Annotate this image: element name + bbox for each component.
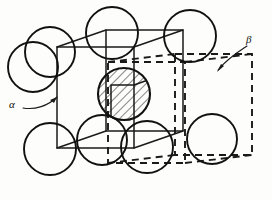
atom-right-mid xyxy=(187,114,237,164)
alpha-cell-label: α xyxy=(9,99,15,110)
atom-center-hatched xyxy=(98,68,150,120)
alpha-leader-line xyxy=(23,97,57,109)
alpha-edge-bottom-left xyxy=(57,131,106,148)
atom-bottom-left xyxy=(24,123,76,175)
alpha-leader xyxy=(23,97,57,109)
atom-top-mid xyxy=(86,7,138,59)
beta-leader xyxy=(217,46,247,72)
unit-cell-figure: α β xyxy=(0,0,272,200)
atom-bottom-inner xyxy=(77,115,127,165)
beta-cell-label: β xyxy=(246,34,251,45)
atom-top-left xyxy=(25,27,75,77)
alpha-edge-top-right xyxy=(134,30,183,47)
atom-left-edge xyxy=(8,42,58,92)
atom-bottom-mid xyxy=(121,121,173,173)
figure-canvas xyxy=(0,0,272,200)
